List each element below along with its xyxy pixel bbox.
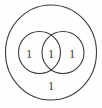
left-set-circle [19, 32, 61, 74]
venn-diagram-canvas: 1 1 1 1 [0, 0, 102, 108]
region-label-right-only: 1 [69, 48, 75, 60]
region-label-outside-both: 1 [48, 80, 54, 92]
region-label-intersection: 1 [48, 48, 54, 60]
region-label-left-only: 1 [26, 48, 32, 60]
venn-diagram-figure: 1 1 1 1 [0, 0, 102, 108]
